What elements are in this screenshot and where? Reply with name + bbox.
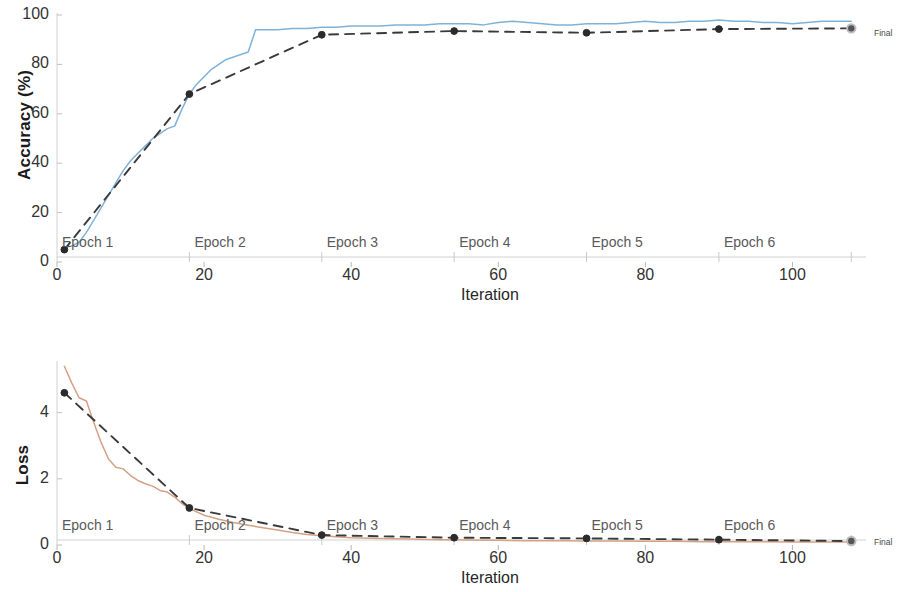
accuracy-x-tick-label: 100 [762,266,822,284]
accuracy-x-tick-label: 20 [174,266,234,284]
accuracy-validation-marker [318,31,325,38]
loss-series-training-loss [64,366,851,542]
loss-x-tick-label: 40 [321,549,381,567]
accuracy-epoch-label: Epoch 3 [327,234,378,250]
accuracy-final-marker [847,24,855,32]
accuracy-final-label: Final [874,28,892,38]
accuracy-series-training-accuracy [64,20,851,247]
accuracy-x-tick-label: 0 [27,266,87,284]
loss-plot-panel: Loss Iteration Final 024020406080100Epoc… [0,350,897,592]
accuracy-epoch-label: Epoch 4 [459,234,510,250]
loss-y-axis-label: Loss [13,430,33,500]
loss-x-tick-label: 60 [468,549,528,567]
loss-validation-marker [716,536,723,543]
loss-validation-marker [61,389,68,396]
loss-epoch-label: Epoch 1 [62,517,113,533]
loss-epoch-label: Epoch 5 [592,517,643,533]
loss-epoch-label: Epoch 2 [194,517,245,533]
loss-x-axis-label: Iteration [420,569,560,587]
accuracy-x-tick-label: 40 [321,266,381,284]
loss-y-tick-label: 2 [0,469,49,487]
accuracy-validation-marker [583,29,590,36]
accuracy-plot-panel: Accuracy (%) Iteration Final 02040608010… [0,0,897,310]
accuracy-validation-marker [186,91,193,98]
loss-y-tick-label: 4 [0,403,49,421]
loss-validation-marker [583,535,590,542]
training-progress-figure: Accuracy (%) Iteration Final 02040608010… [0,0,897,592]
accuracy-y-tick-label: 80 [0,54,49,72]
loss-x-tick-label: 0 [27,549,87,567]
loss-x-tick-label: 100 [762,549,822,567]
accuracy-x-tick-label: 60 [468,266,528,284]
accuracy-y-tick-label: 20 [0,203,49,221]
loss-x-tick-label: 80 [615,549,675,567]
loss-final-label: Final [874,537,892,547]
loss-epoch-label: Epoch 6 [724,517,775,533]
accuracy-epoch-label: Epoch 2 [194,234,245,250]
accuracy-validation-marker [716,26,723,33]
accuracy-y-tick-label: 40 [0,153,49,171]
accuracy-y-tick-label: 100 [0,5,49,23]
accuracy-y-tick-label: 60 [0,104,49,122]
accuracy-x-tick-label: 80 [615,266,675,284]
accuracy-plot-canvas [0,0,897,310]
loss-validation-marker [186,505,193,512]
accuracy-x-axis-label: Iteration [420,286,560,304]
loss-epoch-label: Epoch 3 [327,517,378,533]
accuracy-epoch-label: Epoch 6 [724,234,775,250]
loss-epoch-label: Epoch 4 [459,517,510,533]
loss-validation-marker [318,532,325,539]
loss-x-tick-label: 20 [174,549,234,567]
loss-validation-marker [451,534,458,541]
accuracy-epoch-label: Epoch 5 [592,234,643,250]
loss-final-marker [847,537,855,545]
accuracy-epoch-label: Epoch 1 [62,234,113,250]
accuracy-validation-marker [451,28,458,35]
accuracy-series-validation-accuracy [64,28,851,249]
